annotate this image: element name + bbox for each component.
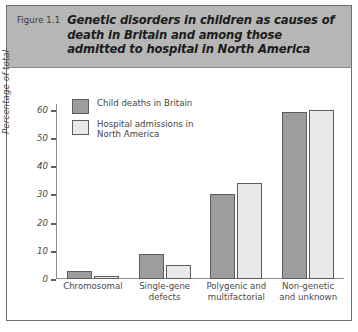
y-axis-tick: 0 <box>51 279 56 280</box>
y-axis-tick-label: 50 <box>37 133 48 143</box>
y-axis-tick-mark <box>51 194 56 196</box>
bar-group <box>210 104 262 279</box>
y-axis-tick-label: 30 <box>37 189 48 199</box>
bar <box>237 183 262 279</box>
bar-series-layer <box>57 104 344 279</box>
y-axis-tick-mark <box>51 251 56 253</box>
x-axis-category-label: Chromosomal <box>57 281 129 292</box>
y-axis-tick-mark <box>51 166 56 168</box>
figure-number-label: Figure 1.1 <box>17 13 60 25</box>
x-axis-category-label: Single-gene defects <box>129 281 201 302</box>
y-axis-tick-mark <box>51 110 56 112</box>
y-axis-tick: 60 <box>51 110 56 111</box>
x-axis-category-label: Polygenic and multifactorial <box>201 281 273 302</box>
bar <box>94 276 119 279</box>
y-axis-tick-label: 10 <box>37 246 48 256</box>
bar <box>309 110 334 279</box>
y-axis-tick-label: 0 <box>43 274 48 284</box>
bar <box>166 265 191 279</box>
y-axis-tick-mark <box>51 223 56 225</box>
y-axis-tick-label: 60 <box>37 105 48 115</box>
figure-header: Figure 1.1 Genetic disorders in children… <box>6 5 352 68</box>
bar <box>67 271 92 279</box>
bar <box>282 112 307 279</box>
y-axis-tick: 10 <box>51 251 56 252</box>
bar-group <box>139 104 191 279</box>
chart-plot-area: Child deaths in Britain Hospital admissi… <box>7 68 351 320</box>
y-axis-tick-label: 40 <box>37 161 48 171</box>
y-axis-tick: 20 <box>51 223 56 224</box>
y-axis-tick-mark <box>51 279 56 281</box>
bar <box>210 194 235 279</box>
y-axis-tick-mark <box>51 138 56 140</box>
figure-title: Genetic disorders in children as causes … <box>67 13 341 57</box>
y-axis-tick: 30 <box>51 194 56 195</box>
y-axis-tick: 40 <box>51 166 56 167</box>
y-axis-tick: 50 <box>51 138 56 139</box>
bar-group <box>67 104 119 279</box>
y-axis-tick-label: 20 <box>37 218 48 228</box>
figure-card: Figure 1.1 Genetic disorders in children… <box>0 0 358 332</box>
bar-group <box>282 104 334 279</box>
x-axis-category-label: Non-genetic and unknown <box>272 281 344 302</box>
y-axis-title: Percentage of total <box>1 14 11 134</box>
bar <box>139 254 164 279</box>
